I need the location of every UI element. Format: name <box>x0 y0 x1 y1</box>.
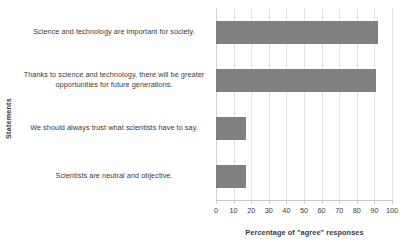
bar[interactable] <box>216 69 376 92</box>
x-axis-tick-mark <box>234 200 235 204</box>
gridline-100 <box>392 8 393 200</box>
bar-row <box>216 56 392 104</box>
x-axis-tick-mark <box>216 200 217 204</box>
bar-row <box>216 152 392 200</box>
bar-row <box>216 104 392 152</box>
x-axis-tick-mark <box>251 200 252 204</box>
x-axis-tick-label: 100 <box>380 206 404 215</box>
category-label-group: Science and technology are important for… <box>12 8 212 200</box>
x-axis-tick-mark <box>269 200 270 204</box>
x-axis-title: Percentage of "agree" responses <box>216 228 393 237</box>
x-axis-tick-mark <box>374 200 375 204</box>
x-axis-tick-mark <box>322 200 323 204</box>
bar[interactable] <box>216 165 246 188</box>
bar[interactable] <box>216 117 246 140</box>
category-label: Thanks to science and technology, there … <box>16 70 212 91</box>
x-axis-tick-mark <box>392 200 393 204</box>
x-axis-tick-mark <box>339 200 340 204</box>
category-label: Science and technology are important for… <box>16 27 212 38</box>
x-axis-tick-mark <box>304 200 305 204</box>
x-axis-tick-mark <box>286 200 287 204</box>
bar[interactable] <box>216 21 378 44</box>
x-axis-tick-mark <box>357 200 358 204</box>
bar-chart: Statements Science and technology are im… <box>0 0 412 251</box>
plot-area <box>216 8 392 200</box>
category-label: We should always trust what scientists h… <box>16 123 212 134</box>
bar-row <box>216 8 392 56</box>
category-label: Scientists are neutral and objective. <box>16 171 212 182</box>
